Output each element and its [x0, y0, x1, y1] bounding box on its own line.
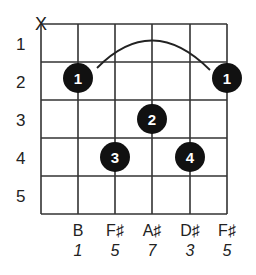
- svg-text:3: 3: [111, 149, 119, 166]
- fret-label-3: 3: [16, 111, 25, 130]
- fret-label-5: 5: [16, 187, 25, 206]
- fretboard-grid: [41, 24, 227, 214]
- svg-text:1: 1: [74, 70, 82, 87]
- note-string-3: F♯: [106, 222, 124, 239]
- finger-dot-1a: 1: [63, 63, 93, 93]
- degree-string-3: 5: [111, 242, 120, 259]
- finger-dot-3: 3: [100, 142, 130, 172]
- fret-label-2: 2: [16, 73, 25, 92]
- note-string-5: D♯: [180, 222, 200, 239]
- note-string-6: F♯: [218, 222, 236, 239]
- degree-string-5: 3: [186, 242, 195, 259]
- svg-text:1: 1: [223, 70, 231, 87]
- degree-string-4: 7: [148, 242, 158, 259]
- note-names: B F♯ A♯ D♯ F♯: [73, 222, 236, 239]
- degree-string-6: 5: [223, 242, 232, 259]
- finger-dot-4: 4: [175, 142, 205, 172]
- fret-labels: 1 2 3 4 5: [16, 35, 25, 206]
- note-string-2: B: [73, 222, 84, 239]
- finger-dot-2: 2: [137, 104, 167, 134]
- fret-label-1: 1: [16, 35, 25, 54]
- svg-text:2: 2: [148, 111, 156, 128]
- chord-diagram: X 1 2 3 4 5 1 1 2 3 4 B F♯ A♯ D♯ F♯ 1 5: [0, 0, 256, 275]
- finger-dot-1b: 1: [212, 63, 242, 93]
- barre-arc: [97, 40, 210, 70]
- fret-label-4: 4: [16, 149, 25, 168]
- note-string-4: A♯: [143, 222, 162, 239]
- muted-string-marker: X: [35, 14, 47, 34]
- degree-string-2: 1: [74, 242, 83, 259]
- scale-degrees: 1 5 7 3 5: [74, 242, 232, 259]
- svg-text:4: 4: [186, 149, 195, 166]
